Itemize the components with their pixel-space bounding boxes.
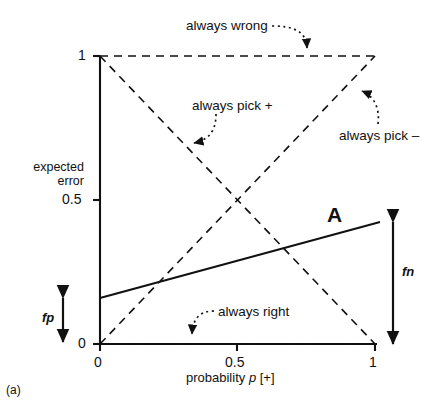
annotation-always-pick-plus: always pick + <box>192 98 273 114</box>
y-axis-title-line2: error <box>14 174 84 188</box>
figure-id-label: (a) <box>6 384 21 398</box>
x-axis-title: probability p [+] <box>186 371 275 386</box>
x-tick-label-0-5: 0.5 <box>225 354 244 370</box>
y-axis-title-line1: expected <box>14 160 84 174</box>
series-classifier-a <box>100 222 380 298</box>
annotation-always-pick-minus: always pick – <box>339 128 419 144</box>
x-tick-label-1: 1 <box>369 354 377 370</box>
y-tick-label-1: 1 <box>78 47 86 63</box>
y-tick-label-0: 0 <box>78 335 86 351</box>
annotation-fp: fp <box>42 311 54 326</box>
leader-always-right <box>192 311 214 334</box>
leader-always-pick-minus <box>362 91 378 124</box>
x-axis-title-suffix: [+] <box>256 370 274 385</box>
annotation-always-right: always right <box>218 304 289 320</box>
figure-panel: 1 0.5 0 0 0.5 1 expected error probabili… <box>0 0 437 411</box>
x-tick-label-0: 0 <box>94 354 102 370</box>
y-axis-title: expected error <box>14 160 84 189</box>
y-tick-label-0-5: 0.5 <box>62 191 81 207</box>
leader-always-wrong <box>272 26 307 48</box>
x-axis-title-prefix: probability <box>186 370 249 385</box>
annotation-classifier-a: A <box>327 203 342 227</box>
annotation-fn: fn <box>402 265 414 280</box>
annotation-always-wrong: always wrong <box>186 18 268 34</box>
leader-always-pick-plus <box>194 114 216 143</box>
